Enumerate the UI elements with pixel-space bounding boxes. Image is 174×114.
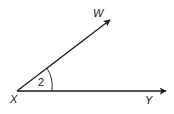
- angle-diagram: 2 X W Y: [0, 0, 174, 114]
- vertex-label-x: X: [9, 93, 18, 105]
- angle-label: 2: [38, 76, 44, 88]
- ray-label-w: W: [93, 7, 105, 19]
- angle-arc: [47, 68, 52, 91]
- ray-label-y: Y: [145, 94, 153, 106]
- ray-xw: [17, 20, 110, 91]
